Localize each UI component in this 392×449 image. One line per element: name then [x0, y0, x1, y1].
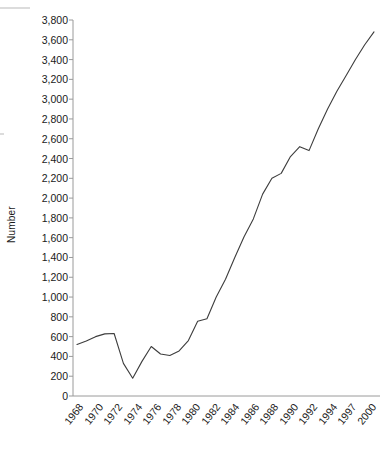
- x-tick-label: 1974: [120, 401, 144, 427]
- x-axis-tick-labels: 1968197019721974197619781980198219841986…: [0, 0, 392, 449]
- x-tick-label: 1992: [296, 401, 320, 427]
- line-chart: Number 02004006008001,0001,2001,4001,600…: [0, 0, 392, 449]
- x-tick-label: 1972: [101, 401, 125, 427]
- x-tick-label: 1980: [179, 401, 203, 427]
- x-tick-label: 1978: [159, 401, 183, 427]
- x-tick-label: 1968: [62, 401, 86, 427]
- x-tick-label: 1970: [81, 401, 105, 427]
- x-tick-label: 1976: [140, 401, 164, 427]
- x-tick-label: 1994: [316, 401, 340, 427]
- x-tick-label: 1984: [218, 401, 242, 427]
- x-tick-label: 1982: [198, 401, 222, 427]
- x-tick-label: 2000: [355, 401, 379, 427]
- x-tick-label: 1986: [237, 401, 261, 427]
- x-tick-label: 1997: [335, 401, 359, 427]
- x-tick-label: 1990: [276, 401, 300, 427]
- x-tick-label: 1988: [257, 401, 281, 427]
